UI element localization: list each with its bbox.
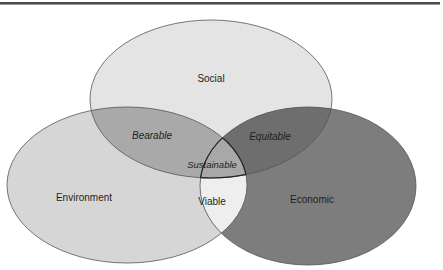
bearable-label: Bearable — [132, 130, 172, 141]
viable-label: Viable — [198, 196, 226, 207]
equitable-label: Equitable — [249, 131, 291, 142]
venn-diagram — [0, 0, 443, 270]
economic-label: Economic — [290, 194, 334, 205]
social-label: Social — [197, 73, 224, 84]
sustainable-label: Sustainable — [187, 159, 237, 170]
environment-label: Environment — [56, 192, 112, 203]
